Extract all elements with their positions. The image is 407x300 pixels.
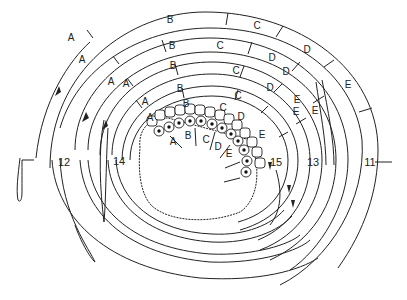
band-numbers: 11 12 13 14 15 [58,155,376,168]
band4-label-e: E [293,106,300,117]
band3-label-c: C [232,65,239,76]
band2-label-d: D [268,52,275,63]
inner-label-d: D [237,111,244,122]
outer-label-c: C [253,20,260,31]
band3-label-b: B [170,60,177,71]
band3-label-a: A [108,76,115,87]
cell-label-b: B [185,130,192,141]
spiral-diagram: A B C D E A B C D E A B C D E A B C D E … [0,0,407,300]
cell-label-d: D [214,141,221,152]
cell-label-e: E [226,148,233,159]
cell-label-a-top: A [147,112,154,123]
cell-label-a: A [170,136,177,147]
inner-label-e: E [259,129,266,140]
band3-label-e: E [294,94,301,105]
band2-label-e: E [312,105,319,116]
outer-label-a: A [68,32,75,43]
outer-label-d: D [303,44,310,55]
outer-label-e: E [345,79,352,90]
band2-label-b: B [169,40,176,51]
number-13: 13 [307,156,319,168]
inner-label-b: B [183,98,190,109]
band2-labels: A B C D E [79,40,319,116]
number-15: 15 [270,156,282,168]
band4-label-d: D [266,82,273,93]
number-12: 12 [58,156,70,168]
band2-label-a: A [79,54,86,65]
band4-label-b: B [177,83,184,94]
cell-label-c: C [202,134,209,145]
inner-label-c: C [219,102,226,113]
band2-label-c: C [216,40,223,51]
number-14: 14 [113,155,125,167]
outer-band [36,12,378,285]
band3-label-d: D [282,66,289,77]
outer-label-b: B [167,14,174,25]
number-11: 11 [364,156,375,168]
inner-label-a: A [142,96,149,107]
band4-label-c: C [234,90,241,101]
band4-label-a: A [123,78,130,89]
